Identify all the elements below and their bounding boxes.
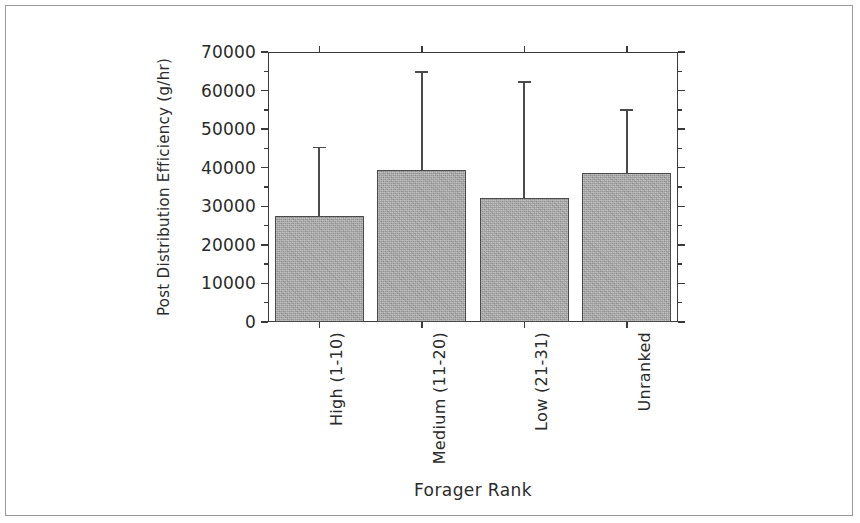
y-axis-tick-minor bbox=[264, 186, 268, 187]
x-axis-tick-top bbox=[626, 46, 628, 52]
error-bar-cap bbox=[518, 81, 531, 83]
y-axis-tick-label: 40000 bbox=[201, 158, 256, 178]
y-axis-tick-minor bbox=[264, 302, 268, 303]
y-axis-tick-major bbox=[261, 90, 268, 92]
error-bar-cap bbox=[415, 71, 428, 73]
y-axis-tick-major-right bbox=[678, 167, 685, 169]
x-axis-tick-label: Unranked bbox=[635, 332, 654, 411]
y-axis-tick-label: 50000 bbox=[201, 119, 256, 139]
y-axis-tick-minor-right bbox=[678, 186, 682, 187]
y-axis-tick-major-right bbox=[678, 244, 685, 246]
y-axis-tick-label: 30000 bbox=[201, 196, 256, 216]
y-axis-tick-major-right bbox=[678, 206, 685, 208]
y-axis-title-text: Post Distribution Efficiency (g/hr) bbox=[155, 58, 173, 316]
y-axis-tick-minor bbox=[264, 263, 268, 264]
y-axis-tick-major bbox=[261, 128, 268, 130]
y-axis-tick-label: 60000 bbox=[201, 81, 256, 101]
y-axis-tick-minor bbox=[264, 148, 268, 149]
y-axis-tick-minor-right bbox=[678, 148, 682, 149]
y-axis-tick-major-right bbox=[678, 128, 685, 130]
y-axis-tick-minor bbox=[264, 225, 268, 226]
x-axis-title: Forager Rank bbox=[268, 480, 678, 500]
x-axis-tick bbox=[524, 322, 526, 328]
x-axis-tick-label: High (1-10) bbox=[327, 332, 346, 426]
error-bar-cap bbox=[313, 147, 326, 149]
y-axis-tick-label: 10000 bbox=[201, 273, 256, 293]
plot-area: 010000200003000040000500006000070000High… bbox=[268, 52, 678, 322]
error-bar-stem bbox=[318, 147, 320, 216]
y-axis-tick-label: 0 bbox=[245, 312, 256, 332]
figure-container: Post Distribution Efficiency (g/hr) 0100… bbox=[0, 0, 860, 523]
y-axis-tick-minor-right bbox=[678, 109, 682, 110]
x-axis-tick bbox=[319, 322, 321, 328]
y-axis-tick-major-right bbox=[678, 51, 685, 53]
y-axis-tick-major-right bbox=[678, 90, 685, 92]
bar bbox=[582, 173, 671, 322]
y-axis-tick-major bbox=[261, 244, 268, 246]
error-bar-stem bbox=[523, 81, 525, 198]
y-axis-tick-label: 20000 bbox=[201, 235, 256, 255]
y-axis-title: Post Distribution Efficiency (g/hr) bbox=[152, 52, 176, 322]
y-axis-tick-minor-right bbox=[678, 225, 682, 226]
y-axis-tick-minor-right bbox=[678, 302, 682, 303]
error-bar-stem bbox=[626, 109, 628, 173]
x-axis-tick-label: Low (21-31) bbox=[532, 332, 551, 431]
y-axis-tick-major bbox=[261, 51, 268, 53]
error-bar-stem bbox=[421, 71, 423, 169]
y-axis-tick-major bbox=[261, 167, 268, 169]
bar bbox=[480, 198, 569, 322]
x-axis-tick bbox=[421, 322, 423, 328]
x-axis-tick-label: Medium (11-20) bbox=[430, 332, 449, 464]
y-axis-tick-minor bbox=[264, 71, 268, 72]
y-axis-tick-major-right bbox=[678, 283, 685, 285]
x-axis-tick-top bbox=[319, 46, 321, 52]
y-axis-tick-major bbox=[261, 206, 268, 208]
error-bar-cap bbox=[620, 109, 633, 111]
x-axis-tick-top bbox=[524, 46, 526, 52]
y-axis-tick-minor-right bbox=[678, 71, 682, 72]
y-axis-tick-major-right bbox=[678, 321, 685, 323]
y-axis-tick-minor-right bbox=[678, 263, 682, 264]
y-axis-tick-major bbox=[261, 321, 268, 323]
y-axis-tick-minor bbox=[264, 109, 268, 110]
bar bbox=[275, 216, 364, 322]
x-axis-tick-top bbox=[421, 46, 423, 52]
x-axis-tick bbox=[626, 322, 628, 328]
bar bbox=[377, 170, 466, 322]
y-axis-tick-label: 70000 bbox=[201, 42, 256, 62]
y-axis-tick-major bbox=[261, 283, 268, 285]
